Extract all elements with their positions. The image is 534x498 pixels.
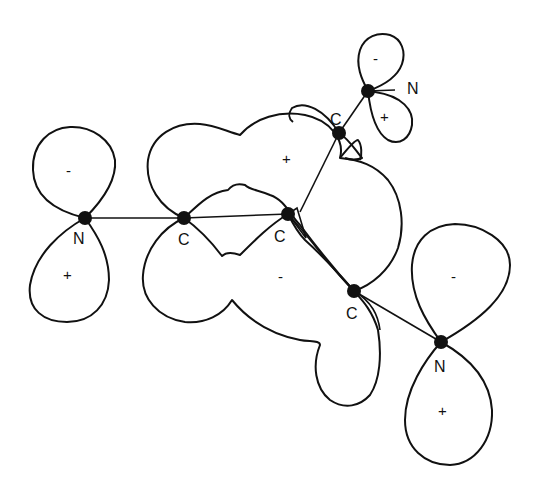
n2-p-orbital <box>405 224 510 465</box>
n3-lower-lobe <box>368 91 412 142</box>
atom-n2 <box>434 335 448 349</box>
atoms <box>78 84 448 349</box>
label-n1: N <box>73 230 85 247</box>
atom-n3 <box>361 84 375 98</box>
atom-c2 <box>281 207 295 221</box>
atom-labels: N C C C N C N <box>73 80 446 375</box>
molecular-orbital-diagram: N C C C N C N - + + - - + - + <box>0 0 534 498</box>
label-c2: C <box>274 228 286 245</box>
sign-n1-upper: - <box>66 162 71 179</box>
phase-signs: - + + - - + - + <box>63 50 456 419</box>
bond-c2-c4 <box>300 133 339 212</box>
bond-c1-c2 <box>184 214 288 218</box>
pi-upper-lobe <box>148 114 402 291</box>
n1-upper-lobe <box>33 127 115 218</box>
n1-p-orbital <box>30 127 116 322</box>
sign-pi-lower: - <box>278 268 283 285</box>
bond-c3-n2 <box>354 291 441 342</box>
sign-n1-lower: + <box>63 266 72 283</box>
n2-upper-lobe <box>412 224 510 342</box>
bond-c4-n3 <box>339 91 368 133</box>
sigma-bonds <box>85 90 441 342</box>
label-c3: C <box>346 305 358 322</box>
atom-c4 <box>332 126 346 140</box>
n3-upper-lobe <box>358 34 403 91</box>
sign-n2-upper: - <box>451 268 456 285</box>
label-c4: C <box>330 111 342 128</box>
sign-n3-lower: + <box>380 108 389 125</box>
atom-c1 <box>177 211 191 225</box>
n2-lower-lobe <box>405 342 492 465</box>
atom-c3 <box>347 284 361 298</box>
atom-n1 <box>78 211 92 225</box>
sign-n2-lower: + <box>438 402 447 419</box>
sign-n3-upper: - <box>373 50 378 67</box>
label-n2: N <box>434 358 446 375</box>
label-n3: N <box>407 80 419 97</box>
label-c1: C <box>178 231 190 248</box>
sign-pi-upper: + <box>282 150 291 167</box>
